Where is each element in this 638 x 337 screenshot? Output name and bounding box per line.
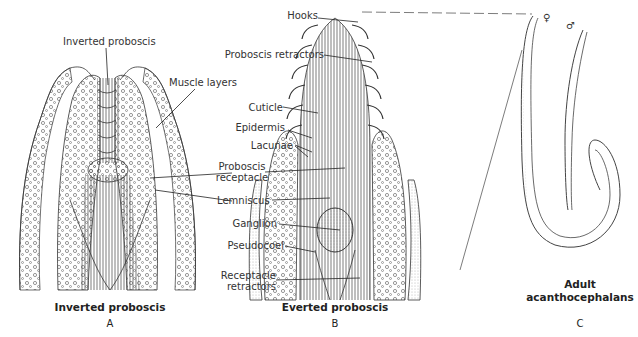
panel-letter-c: C: [520, 318, 638, 329]
label-lacunae: Lacunae: [235, 140, 293, 151]
label-muscle-layers: Muscle layers: [169, 77, 237, 88]
panel-letter-b: B: [265, 318, 405, 329]
label-cuticle: Cuticle: [240, 102, 283, 113]
label-lemniscus: Lemniscus: [217, 195, 270, 206]
label-receptacle-retractors-line1: Receptacle: [216, 270, 276, 281]
label-male-symbol: ♂: [566, 20, 575, 31]
caption-panel-c-line1: Adult: [520, 278, 638, 291]
label-inverted-proboscis: Inverted proboscis: [63, 36, 156, 47]
panel-letter-a: A: [40, 318, 180, 329]
panel-a-drawing: [20, 67, 196, 290]
caption-panel-a: Inverted proboscis: [40, 301, 180, 314]
caption-panel-b: Everted proboscis: [265, 301, 405, 314]
label-proboscis-receptacle-line2: receptacle: [214, 172, 270, 183]
label-receptacle-retractors: Receptacle retractors: [216, 270, 276, 292]
panel-b-drawing: [249, 18, 421, 300]
label-female-symbol: ♀: [543, 12, 550, 23]
label-hooks: Hooks: [280, 10, 318, 21]
panel-c-drawing: [521, 16, 620, 247]
label-ganglion: Ganglion: [225, 218, 277, 229]
label-pseudocoel: Pseudocoel: [216, 240, 284, 251]
label-proboscis-receptacle: Proboscis receptacle: [214, 161, 270, 183]
label-proboscis-receptacle-line1: Proboscis: [214, 161, 270, 172]
caption-panel-c: Adult acanthocephalans: [520, 278, 638, 304]
label-proboscis-retractors: Proboscis retractors: [222, 49, 324, 60]
label-epidermis: Epidermis: [230, 122, 285, 133]
label-receptacle-retractors-line2: retractors: [216, 281, 276, 292]
caption-panel-c-line2: acanthocephalans: [520, 291, 638, 304]
